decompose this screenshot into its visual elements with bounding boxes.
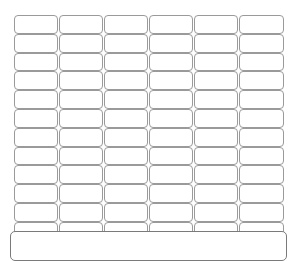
grid-cell[interactable] <box>194 128 238 147</box>
grid-cell[interactable] <box>149 165 193 184</box>
grid-cell[interactable] <box>104 71 148 90</box>
grid-cell[interactable] <box>59 203 103 222</box>
grid-cell[interactable] <box>14 165 58 184</box>
grid-cell[interactable] <box>104 53 148 72</box>
grid-cell[interactable] <box>239 53 283 72</box>
grid-cell[interactable] <box>239 184 283 203</box>
grid-cell[interactable] <box>59 15 103 34</box>
grid-cell[interactable] <box>149 34 193 53</box>
grid-cell[interactable] <box>14 34 58 53</box>
grid-cell[interactable] <box>59 90 103 109</box>
grid-cell[interactable] <box>14 53 58 72</box>
grid-cell[interactable] <box>104 203 148 222</box>
grid-cell[interactable] <box>14 71 58 90</box>
grid-cell[interactable] <box>59 128 103 147</box>
bottom-panel <box>10 231 287 261</box>
grid-cell[interactable] <box>194 34 238 53</box>
grid-cell[interactable] <box>149 90 193 109</box>
grid-cell[interactable] <box>239 71 283 90</box>
grid-cell[interactable] <box>59 165 103 184</box>
grid-cell[interactable] <box>194 147 238 166</box>
grid-cell[interactable] <box>104 128 148 147</box>
grid-cell[interactable] <box>149 15 193 34</box>
grid-cell[interactable] <box>239 203 283 222</box>
grid-cell[interactable] <box>149 128 193 147</box>
grid-cell[interactable] <box>14 15 58 34</box>
grid-cell[interactable] <box>194 71 238 90</box>
grid-cell[interactable] <box>149 109 193 128</box>
grid-cell[interactable] <box>104 147 148 166</box>
grid-cell[interactable] <box>14 184 58 203</box>
grid-cell[interactable] <box>239 128 283 147</box>
grid-cell[interactable] <box>59 34 103 53</box>
grid-cell[interactable] <box>149 53 193 72</box>
grid-cell[interactable] <box>194 184 238 203</box>
grid-cell[interactable] <box>104 184 148 203</box>
grid-cell[interactable] <box>14 128 58 147</box>
grid-cell[interactable] <box>104 90 148 109</box>
grid-cell[interactable] <box>149 147 193 166</box>
grid-cell[interactable] <box>194 165 238 184</box>
grid-cell[interactable] <box>59 71 103 90</box>
grid-cell[interactable] <box>194 203 238 222</box>
grid-cell[interactable] <box>239 34 283 53</box>
grid-cell[interactable] <box>239 15 283 34</box>
grid-cell[interactable] <box>14 147 58 166</box>
grid-cell[interactable] <box>104 109 148 128</box>
grid-cell[interactable] <box>59 184 103 203</box>
grid-cell[interactable] <box>104 34 148 53</box>
grid-cell[interactable] <box>149 184 193 203</box>
grid-cell[interactable] <box>239 147 283 166</box>
grid-cell[interactable] <box>194 90 238 109</box>
grid-cell[interactable] <box>59 109 103 128</box>
grid-cell[interactable] <box>14 109 58 128</box>
grid-cell[interactable] <box>104 165 148 184</box>
grid-cell[interactable] <box>194 53 238 72</box>
grid-cell[interactable] <box>239 109 283 128</box>
grid-cell[interactable] <box>59 147 103 166</box>
grid-cell[interactable] <box>239 165 283 184</box>
grid-cell[interactable] <box>14 203 58 222</box>
grid-cell[interactable] <box>239 90 283 109</box>
button-grid <box>13 15 284 241</box>
grid-cell[interactable] <box>149 203 193 222</box>
grid-cell[interactable] <box>149 71 193 90</box>
grid-cell[interactable] <box>104 15 148 34</box>
grid-cell[interactable] <box>59 53 103 72</box>
grid-cell[interactable] <box>194 15 238 34</box>
grid-cell[interactable] <box>194 109 238 128</box>
grid-cell[interactable] <box>14 90 58 109</box>
